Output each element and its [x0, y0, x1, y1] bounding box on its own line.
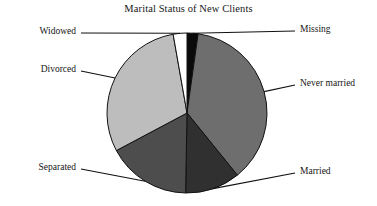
pie-slices-group	[107, 33, 267, 193]
leader-line-divorced	[81, 71, 115, 78]
slice-label-missing: Missing	[300, 25, 331, 35]
slice-label-divorced: Divorced	[41, 65, 76, 75]
leader-line-never-married	[264, 85, 295, 92]
slice-label-never-married: Never married	[300, 79, 355, 89]
slice-label-widowed: Widowed	[39, 27, 76, 37]
pie-chart-figure: Marital Status of New Clients MissingNev…	[0, 0, 377, 206]
slice-label-separated: Separated	[39, 163, 76, 173]
leader-line-missing	[193, 31, 295, 33]
slice-label-married: Married	[300, 167, 331, 177]
